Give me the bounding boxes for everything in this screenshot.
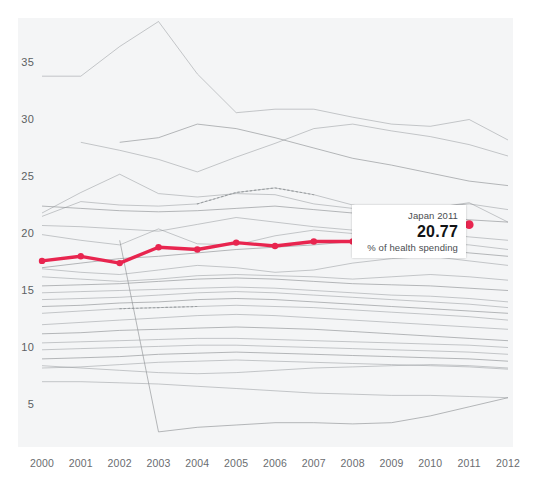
x-tick-2001: 2001: [62, 457, 100, 469]
x-tick-2007: 2007: [295, 457, 333, 469]
x-tick-2010: 2010: [411, 457, 449, 469]
y-tick-10: 10: [6, 341, 34, 353]
y-tick-15: 15: [6, 284, 34, 296]
x-tick-2000: 2000: [23, 457, 61, 469]
x-tick-2005: 2005: [217, 457, 255, 469]
x-tick-2003: 2003: [140, 457, 178, 469]
x-tick-2009: 2009: [373, 457, 411, 469]
x-tick-2004: 2004: [178, 457, 216, 469]
x-tick-2008: 2008: [334, 457, 372, 469]
data-tooltip: Japan 2011 20.77 % of health spending: [352, 205, 466, 258]
tooltip-value: 20.77: [358, 222, 458, 242]
x-tick-2011: 2011: [450, 457, 488, 469]
tooltip-subtitle: % of health spending: [358, 242, 458, 254]
tooltip-title: Japan 2011: [358, 210, 458, 222]
x-tick-2006: 2006: [256, 457, 294, 469]
y-tick-35: 35: [6, 56, 34, 68]
y-tick-25: 25: [6, 170, 34, 182]
x-tick-2012: 2012: [489, 457, 527, 469]
chart-container: 5101520253035 20002001200220032004200520…: [0, 0, 536, 480]
x-tick-2002: 2002: [101, 457, 139, 469]
y-tick-5: 5: [6, 398, 34, 410]
y-tick-30: 30: [6, 113, 34, 125]
y-tick-20: 20: [6, 227, 34, 239]
